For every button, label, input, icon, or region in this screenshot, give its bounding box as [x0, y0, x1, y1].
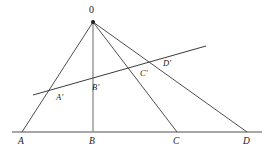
apex-label-O: 0 — [89, 5, 94, 15]
vertex-label-B-prime: B' — [92, 83, 99, 92]
vertex-label-B: B — [89, 137, 95, 147]
vertex-label-D: D — [243, 137, 250, 147]
vertex-label-A: A — [18, 137, 24, 147]
vertex-label-C: C — [173, 137, 180, 147]
ray-OC — [93, 22, 177, 132]
ray-OA — [22, 22, 93, 132]
vertex-label-A-prime: A' — [56, 93, 63, 102]
vertex-label-D-prime: D' — [163, 59, 171, 68]
geometry-figure: 0 A B C D A' B' C' D' — [0, 0, 272, 152]
transversal-line — [33, 46, 206, 95]
apex-point-O — [91, 20, 95, 24]
figure-canvas — [0, 0, 272, 152]
ray-OD — [93, 22, 247, 132]
vertex-label-C-prime: C' — [140, 69, 148, 78]
